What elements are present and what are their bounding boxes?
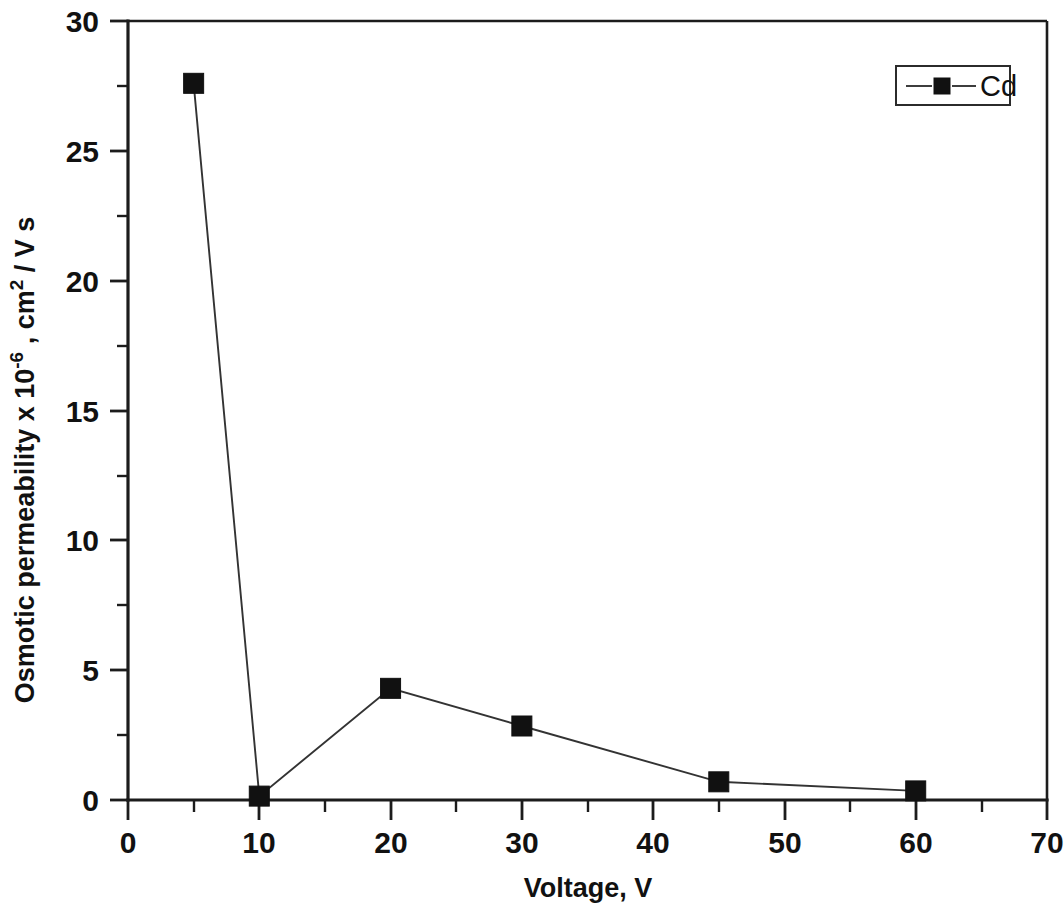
- series-markers-cd: [184, 73, 926, 806]
- y-tick-label: 30: [66, 5, 99, 38]
- data-point-marker: [906, 781, 926, 801]
- y-tick-label: 25: [66, 135, 99, 168]
- x-tick-label: 70: [1030, 826, 1063, 859]
- x-tick-label: 20: [374, 826, 407, 859]
- y-tick-label: 0: [82, 784, 99, 817]
- y-tick-label: 5: [82, 654, 99, 687]
- x-axis: 0 10 20 30 40 50 60 70: [120, 800, 1064, 859]
- x-tick-label: 0: [120, 826, 137, 859]
- data-point-marker: [249, 786, 269, 806]
- plot-frame: [128, 21, 1047, 800]
- x-axis-minor-ticks: [194, 800, 982, 812]
- x-tick-label: 40: [636, 826, 669, 859]
- series-cd: [184, 73, 926, 806]
- y-axis-title-end: / V s: [10, 217, 40, 280]
- y-axis: 0 5 10 15 20 25 30: [66, 5, 128, 817]
- series-line-cd: [194, 83, 916, 796]
- y-axis-title: Osmotic permeability x 10-6 , cm2 / V s: [6, 217, 40, 704]
- y-axis-title-main: Osmotic permeability x 10: [10, 369, 40, 704]
- legend[interactable]: Cd: [896, 66, 1017, 105]
- y-axis-tick-labels: 0 5 10 15 20 25 30: [66, 5, 99, 817]
- line-chart: 0 5 10 15 20 25 30: [0, 0, 1064, 905]
- y-axis-title-mid: , cm: [10, 290, 40, 352]
- legend-marker-square-icon: [934, 78, 950, 94]
- x-tick-label: 60: [899, 826, 932, 859]
- data-point-marker: [709, 772, 729, 792]
- svg-text:Osmotic permeability x 10-6 ,: Osmotic permeability x 10-6 , cm2 / V s: [6, 217, 40, 704]
- data-point-marker: [512, 716, 532, 736]
- y-axis-title-exponent2: 2: [6, 280, 27, 291]
- chart-figure: 0 5 10 15 20 25 30: [0, 0, 1064, 905]
- y-tick-label: 20: [66, 265, 99, 298]
- x-tick-label: 50: [768, 826, 801, 859]
- data-point-marker: [184, 73, 204, 93]
- x-axis-tick-labels: 0 10 20 30 40 50 60 70: [120, 826, 1064, 859]
- data-point-marker: [381, 678, 401, 698]
- x-tick-label: 10: [242, 826, 275, 859]
- y-tick-label: 10: [66, 524, 99, 557]
- y-tick-label: 15: [66, 395, 99, 428]
- y-axis-title-exponent: -6: [6, 352, 27, 369]
- y-axis-major-ticks: [110, 21, 128, 800]
- legend-label-cd: Cd: [980, 70, 1017, 102]
- x-tick-label: 30: [505, 826, 538, 859]
- x-axis-title: Voltage, V: [524, 873, 653, 903]
